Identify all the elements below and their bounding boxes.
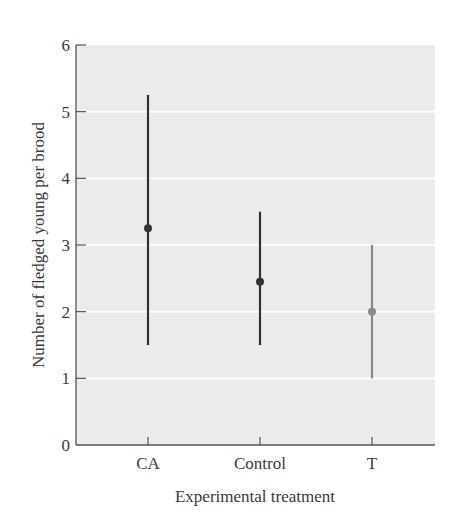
- x-tick-label: CA: [136, 454, 160, 473]
- y-tick-label: 4: [62, 169, 71, 188]
- y-tick-label: 6: [62, 36, 71, 55]
- mean-point-t: [368, 308, 376, 316]
- y-tick-label: 1: [62, 369, 71, 388]
- y-tick-label: 3: [62, 236, 71, 255]
- y-tick-label: 2: [62, 303, 71, 322]
- y-tick-label: 5: [62, 103, 71, 122]
- y-tick-label: 0: [62, 436, 71, 455]
- mean-point-ca: [144, 224, 152, 232]
- x-axis-title: Experimental treatment: [175, 487, 335, 506]
- y-axis-title: Number of fledged young per brood: [29, 122, 48, 368]
- x-tick-label: T: [367, 454, 378, 473]
- x-tick-label: Control: [234, 454, 286, 473]
- chart: 0123456 CAControlT Experimental treatmen…: [0, 0, 454, 527]
- mean-point-control: [256, 278, 264, 286]
